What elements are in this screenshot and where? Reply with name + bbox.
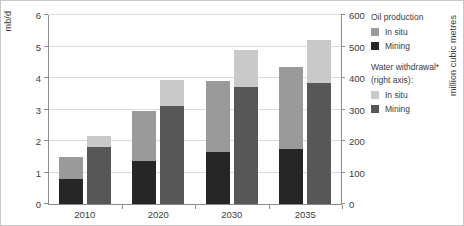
bar-segment bbox=[160, 106, 184, 204]
left-axis-tick bbox=[44, 172, 48, 173]
left-axis-tick-label: 4 bbox=[36, 73, 41, 84]
right-axis-tick-label: 600 bbox=[349, 10, 365, 21]
legend-item-label: Mining bbox=[385, 41, 410, 51]
legend-swatch-icon bbox=[371, 42, 379, 50]
legend-item-mining[interactable]: Mining bbox=[371, 102, 463, 116]
left-axis-tick bbox=[44, 46, 48, 47]
right-axis-tick-label: 300 bbox=[349, 105, 365, 116]
left-axis-tick-label: 3 bbox=[36, 105, 41, 116]
legend-item-label: In situ bbox=[385, 90, 408, 100]
right-axis-tick bbox=[341, 46, 345, 47]
category-axis-tick bbox=[122, 205, 123, 209]
bar-segment bbox=[234, 50, 258, 88]
legend-group-heading: Water withdrawal* bbox=[371, 62, 463, 73]
right-axis-tick bbox=[341, 172, 345, 173]
bar-segment bbox=[279, 149, 303, 204]
left-axis-title: mb/d bbox=[3, 11, 13, 31]
bar-segment bbox=[307, 83, 331, 204]
bar-segment bbox=[132, 161, 156, 204]
right-axis-tick bbox=[341, 77, 345, 78]
bar-segment bbox=[206, 81, 230, 152]
bar-segment bbox=[206, 152, 230, 204]
category-label-2035: 2035 bbox=[295, 209, 316, 220]
bar-segment bbox=[59, 179, 83, 204]
legend-item-mining[interactable]: Mining bbox=[371, 39, 463, 53]
bar-oil-2020 bbox=[132, 111, 156, 204]
gridline bbox=[49, 46, 341, 47]
bar-water-2035 bbox=[307, 40, 331, 204]
left-axis-tick bbox=[44, 109, 48, 110]
right-axis-tick bbox=[341, 140, 345, 141]
legend-swatch-icon bbox=[371, 28, 379, 36]
bar-segment bbox=[279, 67, 303, 149]
plot-area: 0123456 0100200300400500600 201020202030… bbox=[48, 15, 342, 205]
bar-water-2010 bbox=[87, 136, 111, 204]
gridline bbox=[49, 14, 341, 15]
bar-segment bbox=[59, 157, 83, 180]
bar-segment bbox=[87, 147, 111, 204]
left-axis-tick-label: 5 bbox=[36, 42, 41, 53]
bar-water-2030 bbox=[234, 50, 258, 204]
chart-legend: Oil productionIn situMiningWater withdra… bbox=[371, 12, 463, 116]
category-label-2030: 2030 bbox=[221, 209, 242, 220]
left-axis-tick-label: 2 bbox=[36, 136, 41, 147]
left-axis-tick bbox=[44, 203, 48, 204]
right-axis-tick-label: 400 bbox=[349, 73, 365, 84]
category-axis-tick bbox=[342, 205, 343, 209]
right-axis-tick bbox=[341, 203, 345, 204]
legend-item-in-situ[interactable]: In situ bbox=[371, 25, 463, 39]
legend-item-in-situ[interactable]: In situ bbox=[371, 88, 463, 102]
left-axis-tick bbox=[44, 14, 48, 15]
bar-water-2020 bbox=[160, 80, 184, 204]
legend-group-heading: Oil production bbox=[371, 12, 463, 23]
legend-item-label: Mining bbox=[385, 104, 410, 114]
bar-segment bbox=[160, 80, 184, 107]
left-axis-tick bbox=[44, 77, 48, 78]
bar-segment bbox=[132, 111, 156, 161]
legend-swatch-icon bbox=[371, 105, 379, 113]
right-axis-tick-label: 500 bbox=[349, 42, 365, 53]
left-axis-tick bbox=[44, 140, 48, 141]
bar-oil-2030 bbox=[206, 81, 230, 204]
legend-group-heading: (right axis): bbox=[371, 75, 463, 86]
right-axis-tick bbox=[341, 109, 345, 110]
bar-oil-2035 bbox=[279, 67, 303, 204]
legend-item-label: In situ bbox=[385, 27, 408, 37]
category-axis-tick bbox=[269, 205, 270, 209]
right-axis-tick-label: 200 bbox=[349, 136, 365, 147]
chart-figure: mb/d million cubic metres 0123456 010020… bbox=[0, 0, 464, 226]
category-label-2020: 2020 bbox=[148, 209, 169, 220]
right-axis-tick-label: 100 bbox=[349, 168, 365, 179]
bar-segment bbox=[87, 136, 111, 147]
left-axis-tick-label: 1 bbox=[36, 168, 41, 179]
right-axis-line bbox=[341, 15, 342, 205]
left-axis-line bbox=[48, 15, 49, 205]
left-axis-tick-label: 6 bbox=[36, 10, 41, 21]
right-axis-tick-label: 0 bbox=[349, 199, 354, 210]
category-label-2010: 2010 bbox=[74, 209, 95, 220]
right-axis-tick bbox=[341, 14, 345, 15]
left-axis-tick-label: 0 bbox=[36, 199, 41, 210]
category-axis-tick bbox=[195, 205, 196, 209]
bar-segment bbox=[234, 87, 258, 204]
bar-oil-2010 bbox=[59, 157, 83, 204]
bar-segment bbox=[307, 40, 331, 83]
legend-swatch-icon bbox=[371, 91, 379, 99]
